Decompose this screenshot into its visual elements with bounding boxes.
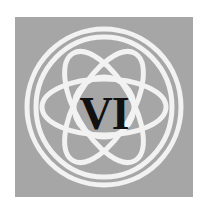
- roman-numeral: VI: [15, 91, 193, 137]
- emblem: VI: [15, 17, 193, 197]
